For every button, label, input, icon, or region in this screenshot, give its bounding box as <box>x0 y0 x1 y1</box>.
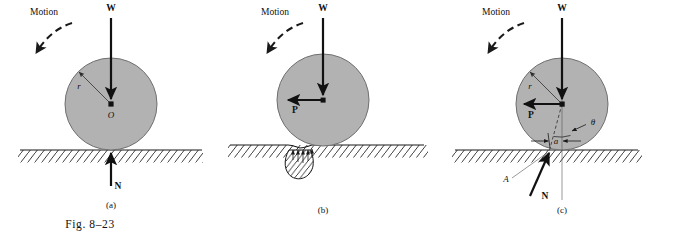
contact-point-label-c: A <box>502 174 509 184</box>
radius-label-a: r <box>77 81 81 91</box>
center-point-a <box>108 101 113 106</box>
weight-label-b: W <box>318 3 328 13</box>
applied-force-label-c: P <box>528 110 534 120</box>
weight-label-a: W <box>106 3 116 13</box>
panel-label-a: (a) <box>106 200 116 210</box>
radius-label-c: r <box>528 81 532 91</box>
theta-label-c: θ <box>591 117 596 127</box>
normal-label-c: N <box>542 191 549 201</box>
center-label-a: O <box>108 110 115 120</box>
motion-label-a: Motion <box>30 7 58 17</box>
offset-label-c: a <box>554 136 559 146</box>
panel-label-c: (c) <box>557 205 567 215</box>
motion-label-c: Motion <box>482 7 510 17</box>
normal-label-a: N <box>115 181 122 191</box>
center-point-b <box>321 98 326 103</box>
weight-label-c: W <box>557 3 567 13</box>
panel-label-b: (b) <box>318 205 329 215</box>
ground-surface-b <box>228 145 428 158</box>
figure-container: r W O N Motion (a) <box>0 0 685 234</box>
ground-hatching-b <box>228 145 428 158</box>
figure-caption: Fig. 8–23 <box>65 218 115 231</box>
motion-label-b: Motion <box>261 7 289 17</box>
rolling-resistance-figure: r W O N Motion (a) <box>0 0 685 234</box>
applied-force-label-b: P <box>292 105 298 115</box>
center-point-c <box>560 102 565 107</box>
